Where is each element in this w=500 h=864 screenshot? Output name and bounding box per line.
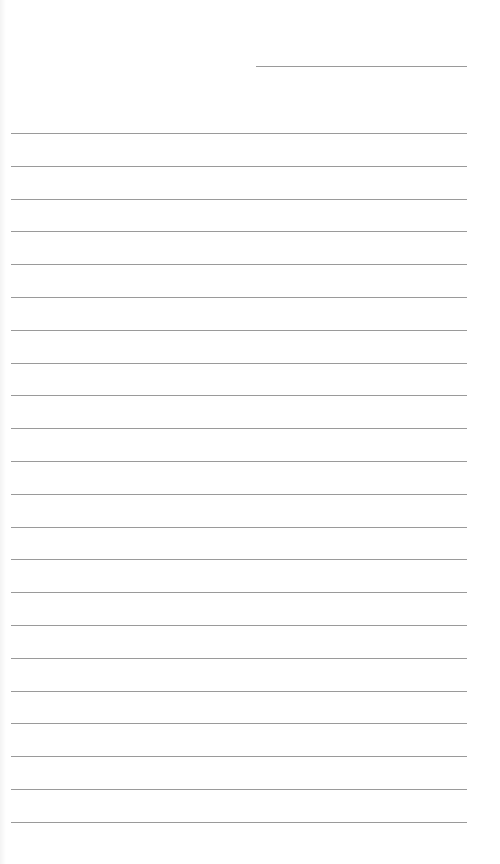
ruled-line	[11, 231, 467, 232]
ruled-line	[11, 756, 467, 757]
ruled-line	[11, 133, 467, 134]
ruled-line	[11, 395, 467, 396]
ruled-lines-area	[11, 0, 467, 864]
ruled-line	[11, 625, 467, 626]
ruled-line	[11, 363, 467, 364]
ruled-line	[11, 658, 467, 659]
ruled-line	[11, 199, 467, 200]
ruled-line	[11, 330, 467, 331]
ruled-line	[11, 264, 467, 265]
ruled-line	[11, 428, 467, 429]
ruled-line	[11, 461, 467, 462]
lined-paper-page	[0, 0, 500, 864]
ruled-line	[11, 723, 467, 724]
ruled-line	[11, 494, 467, 495]
ruled-line	[11, 527, 467, 528]
ruled-line	[11, 592, 467, 593]
ruled-line	[11, 297, 467, 298]
ruled-line	[11, 559, 467, 560]
ruled-line	[11, 822, 467, 823]
ruled-line	[11, 789, 467, 790]
page-edge-shadow	[0, 0, 6, 864]
ruled-line	[11, 166, 467, 167]
ruled-line	[11, 691, 467, 692]
